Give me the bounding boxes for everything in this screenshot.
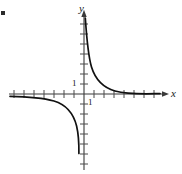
- curve-branch-quadrant-three: [10, 96, 79, 153]
- curve-branch-quadrant-one: [85, 18, 160, 94]
- hyperbola-figure: y x 1 1: [0, 0, 182, 174]
- y-axis-tick-label-1: 1: [72, 79, 77, 88]
- plot-canvas: [0, 0, 182, 174]
- x-axis-tick-label-1: 1: [88, 98, 93, 107]
- x-axis-label: x: [171, 88, 176, 99]
- y-axis-label: y: [79, 3, 84, 14]
